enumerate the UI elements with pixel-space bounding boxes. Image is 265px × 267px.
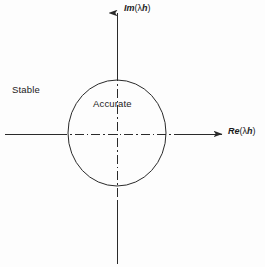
stability-region-figure: Stable Accurate Im(λh) Re(λh): [0, 0, 265, 267]
figure-canvas: [0, 0, 265, 267]
real-axis-label-fn: Re: [228, 126, 240, 136]
real-axis-label-close-paren: ): [253, 126, 256, 136]
stable-region-label: Stable: [12, 85, 40, 95]
imaginary-axis-label-close-paren: ): [148, 3, 151, 13]
accurate-region-label: Accurate: [93, 99, 132, 109]
real-axis-label: Re(λh): [228, 127, 256, 136]
imaginary-axis-label-fn: Im: [124, 3, 135, 13]
imaginary-axis-label: Im(λh): [124, 4, 151, 13]
